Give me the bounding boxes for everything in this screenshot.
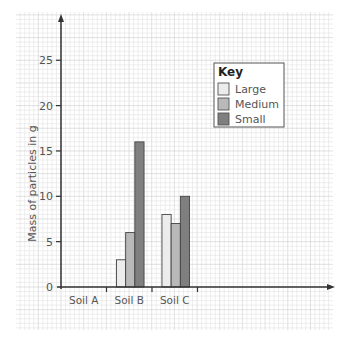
legend-label-large: Large	[235, 83, 266, 96]
bar-chart: 0510152025Soil ASoil BSoil CMass of part…	[0, 0, 345, 339]
y-axis-title: Mass of particles in g	[26, 125, 39, 242]
legend-title: Key	[218, 65, 243, 79]
x-category-label: Soil A	[69, 294, 99, 306]
legend-swatch-large	[218, 83, 229, 95]
legend-label-small: Small	[235, 113, 266, 126]
bar-soil-c-medium	[171, 224, 180, 287]
y-tick-label: 5	[46, 236, 53, 249]
legend-swatch-small	[218, 113, 229, 125]
legend-label-medium: Medium	[235, 98, 279, 111]
y-tick-label: 15	[39, 145, 53, 158]
bar-soil-c-small	[180, 196, 189, 287]
y-tick-label: 20	[39, 100, 53, 113]
x-category-label: Soil C	[160, 294, 190, 306]
bar-soil-b-large	[116, 260, 125, 287]
y-tick-label: 25	[39, 54, 53, 67]
y-tick-label: 0	[46, 281, 53, 294]
bar-soil-c-large	[162, 214, 171, 287]
bar-soil-b-medium	[126, 233, 135, 287]
legend-swatch-medium	[218, 98, 229, 110]
legend: KeyLargeMediumSmall	[214, 63, 284, 127]
y-tick-label: 10	[39, 190, 53, 203]
x-category-label: Soil B	[115, 294, 144, 306]
bar-soil-b-small	[135, 142, 144, 287]
